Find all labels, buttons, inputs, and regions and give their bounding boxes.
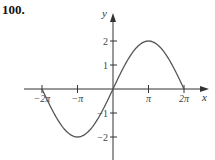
x-tick-label: 2π xyxy=(179,93,190,104)
x-axis-label: x xyxy=(201,91,207,103)
problem-number: 100. xyxy=(2,2,25,17)
y-tick-label: −2 xyxy=(97,132,108,143)
y-axis-label: y xyxy=(101,7,107,19)
x-tick-label: −π xyxy=(72,93,85,104)
y-axis-arrow-icon xyxy=(110,13,116,22)
y-tick-label: 2 xyxy=(103,36,108,47)
x-ticks: −2π−ππ2π xyxy=(34,85,190,104)
function-graph: 100. x y −2π−ππ2π 21−1−2 xyxy=(0,0,215,160)
y-tick-label: 1 xyxy=(103,60,108,71)
x-tick-label: π xyxy=(146,93,152,104)
axes xyxy=(24,13,209,160)
